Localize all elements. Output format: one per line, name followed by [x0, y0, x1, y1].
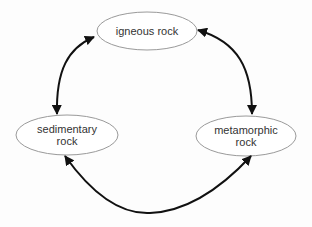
igneous-rock-label: igneous rock [116, 25, 178, 37]
arrow-sedimentary-metamorphic [65, 156, 251, 213]
sedimentary-line1: sedimentary [37, 123, 97, 135]
metamorphic-rock-label: metamorphic rock [214, 124, 278, 148]
arrow-igneous-sedimentary [57, 37, 94, 114]
igneous-rock-text: igneous rock [116, 25, 178, 37]
arrow-igneous-metamorphic [198, 30, 252, 114]
metamorphic-line2: rock [214, 136, 278, 148]
sedimentary-rock-label: sedimentary rock [37, 123, 97, 147]
sedimentary-line2: rock [37, 135, 97, 147]
metamorphic-line1: metamorphic [214, 124, 278, 136]
rock-cycle-diagram: igneous rock sedimentary rock metamorphi… [0, 0, 312, 227]
